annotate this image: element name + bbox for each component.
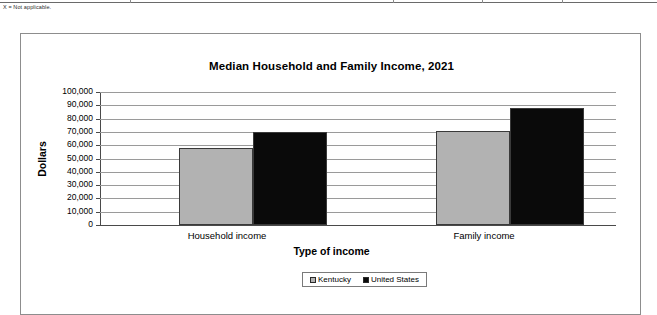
y-tick-mark — [96, 119, 100, 120]
y-tick-label: 50,000 — [67, 153, 93, 163]
plot-area — [100, 92, 616, 225]
y-tick-label: 30,000 — [67, 179, 93, 189]
legend-label-united-states: United States — [371, 275, 419, 284]
y-tick-label: 70,000 — [67, 126, 93, 136]
y-tick-label: 20,000 — [67, 192, 93, 202]
legend-swatch-kentucky-icon — [310, 277, 316, 283]
x-axis-baseline — [100, 225, 616, 226]
footnote-text: X = Not applicable. — [3, 4, 51, 10]
y-tick-mark — [96, 212, 100, 213]
legend-item-kentucky: Kentucky — [310, 275, 351, 284]
y-tick-label: 0 — [88, 219, 93, 229]
rule-tick — [482, 0, 483, 3]
y-tick-mark — [96, 132, 100, 133]
y-tick-mark — [96, 92, 100, 93]
y-tick-mark — [96, 105, 100, 106]
gridline — [100, 105, 616, 106]
rule-tick — [562, 0, 563, 3]
x-category-label-family: Family income — [394, 230, 574, 241]
x-category-label-household: Household income — [137, 230, 317, 241]
y-tick-mark — [96, 172, 100, 173]
rule-tick — [130, 0, 131, 3]
gridline — [100, 92, 616, 93]
y-tick-mark — [96, 145, 100, 146]
bar-household-kentucky — [179, 148, 253, 225]
legend-item-united-states: United States — [363, 275, 419, 284]
y-tick-label: 100,000 — [62, 86, 93, 96]
y-tick-mark — [96, 198, 100, 199]
y-tick-label: 80,000 — [67, 113, 93, 123]
bar-household-united-states — [253, 132, 327, 225]
y-tick-label: 90,000 — [67, 99, 93, 109]
table-bottom-rule — [0, 2, 657, 3]
bar-family-united-states — [510, 108, 584, 225]
y-axis-tick-labels: 100,000 90,000 80,000 70,000 60,000 50,0… — [21, 92, 93, 225]
y-tick-mark — [96, 185, 100, 186]
bar-family-kentucky — [436, 131, 510, 225]
rule-tick — [393, 0, 394, 3]
x-axis-title: Type of income — [21, 245, 642, 257]
y-tick-label: 10,000 — [67, 206, 93, 216]
chart-legend: Kentucky United States — [302, 272, 427, 287]
legend-swatch-united-states-icon — [363, 277, 369, 283]
y-tick-label: 40,000 — [67, 166, 93, 176]
chart-container: Median Household and Family Income, 2021… — [20, 33, 641, 315]
legend-label-kentucky: Kentucky — [318, 275, 351, 284]
y-tick-mark — [96, 159, 100, 160]
y-tick-label: 60,000 — [67, 139, 93, 149]
chart-title: Median Household and Family Income, 2021 — [21, 60, 642, 72]
